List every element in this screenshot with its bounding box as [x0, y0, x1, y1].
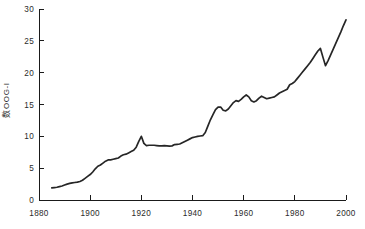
- y-tick-label: 0: [29, 196, 34, 205]
- y-tick-label: 30: [24, 5, 34, 14]
- x-tick-label: 1880: [29, 209, 49, 218]
- chart-container: 数OOG-I 051015202530 18801900192019401960…: [0, 0, 365, 229]
- y-axis-label: 数OOG-I: [1, 82, 11, 117]
- data-series-group: [52, 20, 346, 188]
- x-tick-label: 1940: [183, 209, 203, 218]
- y-tick-label: 15: [24, 101, 34, 110]
- y-axis-label-text: 数OOG-I: [1, 82, 11, 117]
- x-tick-label: 1900: [80, 209, 100, 218]
- x-axis-ticks: 1880190019201940196019802000: [29, 195, 356, 218]
- x-tick-label: 1960: [234, 209, 254, 218]
- x-tick-label: 2000: [336, 209, 356, 218]
- line-chart: 数OOG-I 051015202530 18801900192019401960…: [0, 0, 365, 229]
- chart-axes: [39, 9, 346, 200]
- data-line-series-1: [52, 20, 346, 188]
- y-tick-label: 25: [24, 37, 34, 46]
- x-tick-label: 1980: [285, 209, 305, 218]
- y-tick-label: 5: [29, 164, 34, 173]
- y-tick-label: 10: [24, 132, 34, 141]
- y-tick-label: 20: [24, 69, 34, 78]
- x-tick-label: 1920: [132, 209, 152, 218]
- y-axis-ticks: 051015202530: [24, 5, 44, 205]
